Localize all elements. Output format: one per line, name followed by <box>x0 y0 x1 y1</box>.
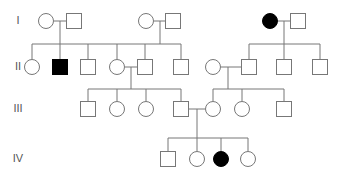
unaffected-female-I-1 <box>39 14 54 29</box>
unaffected-male-II-10 <box>313 60 328 75</box>
unaffected-female-III-2 <box>110 102 125 117</box>
unaffected-female-II-1 <box>25 60 40 75</box>
affected-female-I-5 <box>263 14 278 29</box>
unaffected-male-II-9 <box>277 60 292 75</box>
unaffected-female-IV-4 <box>241 152 256 167</box>
unaffected-female-II-4 <box>110 60 125 75</box>
unaffected-male-III-1 <box>81 102 96 117</box>
unaffected-male-II-3 <box>81 60 96 75</box>
generation-label: II <box>10 60 26 72</box>
generation-label: III <box>10 102 26 114</box>
unaffected-male-I-6 <box>291 14 306 29</box>
unaffected-female-II-7 <box>206 60 221 75</box>
unaffected-male-I-4 <box>166 14 181 29</box>
unaffected-male-III-7 <box>277 102 292 117</box>
affected-male-II-2 <box>53 60 68 75</box>
unaffected-female-I-3 <box>139 14 154 29</box>
unaffected-male-I-2 <box>67 14 82 29</box>
unaffected-female-III-6 <box>235 102 250 117</box>
unaffected-male-III-4 <box>174 102 189 117</box>
generation-label: IV <box>10 152 26 164</box>
unaffected-female-III-5 <box>206 102 221 117</box>
unaffected-male-II-6 <box>174 60 189 75</box>
generation-label: I <box>10 14 26 26</box>
unaffected-male-IV-1 <box>161 152 176 167</box>
pedigree-diagram <box>0 0 338 179</box>
unaffected-male-II-8 <box>242 60 257 75</box>
unaffected-female-III-3 <box>139 102 154 117</box>
affected-female-IV-3 <box>214 152 229 167</box>
unaffected-female-IV-2 <box>190 152 205 167</box>
unaffected-male-II-5 <box>138 60 153 75</box>
